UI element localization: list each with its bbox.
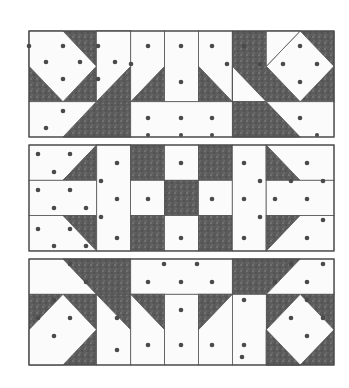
panel-middle: [29, 145, 334, 251]
panel-bottom: [29, 259, 334, 365]
quilt-diagram: [0, 0, 349, 388]
panel-top: [27, 31, 334, 137]
